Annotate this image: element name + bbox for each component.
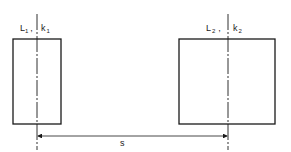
right-label-L: L2, [206, 23, 221, 34]
right-body-rectangle [179, 39, 275, 124]
left-label-k: k1 [41, 23, 51, 34]
dimension-label-s: s [120, 138, 125, 148]
right-label-k: k2 [233, 23, 243, 34]
diagram-canvas: L1, k1 L2, k2 s [0, 0, 291, 152]
left-label-L: L1, [20, 23, 33, 34]
